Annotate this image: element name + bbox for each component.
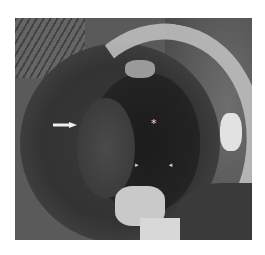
eye-photograph: * ▸ ◂ [15,18,252,240]
lens-opacity [77,98,135,198]
light-reflex [140,218,180,240]
arrowhead-markers: ▸ ◂ [135,162,186,169]
bright-spot [220,113,242,151]
upper-deposit [125,60,155,78]
asterisk-marker: * [151,118,157,129]
arrow-icon [53,122,77,128]
